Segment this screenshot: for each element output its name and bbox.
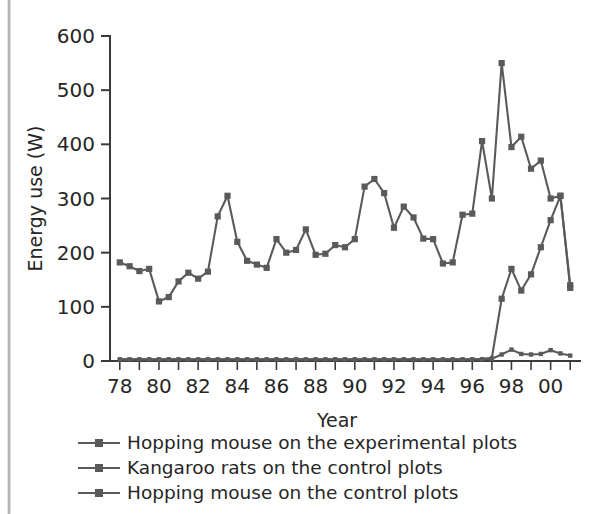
data-point [225, 357, 229, 361]
data-point [402, 357, 406, 361]
data-point [538, 244, 544, 250]
data-point [255, 357, 259, 361]
data-point [304, 357, 308, 361]
data-point [273, 236, 279, 242]
data-point [283, 250, 289, 256]
data-point [333, 357, 337, 361]
x-tick-label: 80 [146, 374, 171, 398]
legend-item-1: Kangaroo rats on the control plots [78, 455, 538, 480]
data-point [284, 357, 288, 361]
legend-line-square-marker-icon [78, 486, 120, 500]
data-point [421, 357, 425, 361]
data-point [235, 357, 239, 361]
data-point [420, 235, 426, 241]
data-point [293, 247, 299, 253]
data-point [371, 176, 377, 182]
data-point [558, 351, 562, 355]
y-tick-label: 200 [57, 241, 95, 265]
data-point [254, 261, 260, 267]
data-point [372, 357, 376, 361]
y-tick-label: 600 [57, 24, 95, 48]
data-point [538, 157, 544, 163]
x-tick-label: 90 [342, 374, 367, 398]
data-point [175, 278, 181, 284]
data-point [479, 138, 485, 144]
data-point [156, 298, 162, 304]
data-point [548, 348, 552, 352]
data-point [166, 294, 172, 300]
data-point [216, 357, 220, 361]
data-point [528, 271, 534, 277]
data-point [127, 357, 131, 361]
data-point [499, 60, 505, 66]
data-point [568, 353, 572, 357]
data-point [490, 357, 494, 361]
data-point [137, 357, 141, 361]
data-point [118, 357, 122, 361]
x-tick-label: 94 [420, 374, 445, 398]
data-point [382, 357, 386, 361]
data-point [136, 268, 142, 274]
data-point [224, 193, 230, 199]
data-point [469, 211, 475, 217]
data-point [508, 144, 514, 150]
data-point [567, 285, 573, 291]
data-point [518, 134, 524, 140]
data-point [499, 296, 505, 302]
data-point [450, 259, 456, 265]
data-point [343, 357, 347, 361]
data-point [539, 352, 543, 356]
data-point [411, 357, 415, 361]
data-point [392, 357, 396, 361]
data-point [274, 357, 278, 361]
data-point [313, 357, 317, 361]
data-point [528, 166, 534, 172]
y-axis-label: Energy use (W) [24, 126, 46, 272]
x-tick-label: 92 [381, 374, 406, 398]
x-tick-label: 96 [460, 374, 485, 398]
data-point [529, 352, 533, 356]
x-tick-label: 82 [185, 374, 210, 398]
data-point [410, 214, 416, 220]
legend-line-square-marker-icon [78, 461, 120, 475]
data-point [480, 357, 484, 361]
y-tick-label: 300 [57, 187, 95, 211]
data-point [294, 357, 298, 361]
data-point [234, 239, 240, 245]
data-point [206, 357, 210, 361]
data-point [126, 263, 132, 269]
data-point [489, 195, 495, 201]
series-line-0 [120, 63, 570, 301]
data-point [362, 357, 366, 361]
series-line-1 [120, 196, 570, 360]
data-point [215, 213, 221, 219]
legend-label-1: Kangaroo rats on the control plots [127, 457, 443, 478]
data-point [548, 195, 554, 201]
data-point [470, 357, 474, 361]
data-point [322, 251, 328, 257]
data-point [313, 252, 319, 258]
x-tick-label: 88 [303, 374, 328, 398]
data-point [460, 357, 464, 361]
data-point [391, 225, 397, 231]
data-point [451, 357, 455, 361]
data-point [186, 357, 190, 361]
data-point [157, 357, 161, 361]
y-tick-label: 100 [57, 295, 95, 319]
data-point [352, 236, 358, 242]
y-tick-label: 0 [82, 349, 95, 373]
data-point [440, 260, 446, 266]
data-point [264, 265, 270, 271]
data-point [401, 204, 407, 210]
data-point [459, 212, 465, 218]
data-point [303, 226, 309, 232]
data-point [519, 352, 523, 356]
data-point [431, 357, 435, 361]
data-point [361, 183, 367, 189]
data-point [205, 269, 211, 275]
data-point [332, 242, 338, 248]
chart-figure: 0100200300400500600788082848688909294969… [0, 0, 601, 514]
data-point [509, 347, 513, 351]
y-tick-label: 500 [57, 78, 95, 102]
legend-label-2: Hopping mouse on the control plots [127, 482, 458, 503]
